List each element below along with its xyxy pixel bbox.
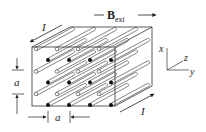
current-label-bottom: I bbox=[140, 105, 146, 117]
horizontal-spacing-indicator: a bbox=[28, 111, 90, 123]
axis-z-label: z bbox=[183, 52, 188, 63]
vertical-spacing-indicator: a bbox=[12, 58, 24, 114]
coordinate-axes: x y z bbox=[158, 43, 195, 77]
horizontal-spacing-label: a bbox=[55, 111, 61, 123]
wire-rods bbox=[35, 27, 149, 106]
wire-end-filled bbox=[67, 103, 71, 107]
vertical-spacing-label: a bbox=[14, 76, 20, 88]
axis-x-label: x bbox=[158, 43, 164, 54]
wire-end-hollow bbox=[97, 92, 101, 96]
wire-end-hollow bbox=[34, 47, 38, 51]
wire-end-filled bbox=[109, 103, 113, 107]
wire-end-filled bbox=[67, 81, 71, 85]
current-label-top: I bbox=[41, 21, 47, 33]
wire-end-hollow bbox=[76, 47, 80, 51]
wire-end-hollow bbox=[55, 70, 59, 74]
wire-end-filled bbox=[88, 58, 92, 62]
field-label-sub: ext bbox=[115, 15, 126, 24]
wire-end-filled bbox=[67, 58, 71, 62]
axis-y-label: y bbox=[189, 66, 195, 77]
field-label: Bext bbox=[107, 8, 126, 24]
wire-end-filled bbox=[46, 81, 50, 85]
wire-end-hollow bbox=[55, 92, 59, 96]
wire-end-filled bbox=[109, 81, 113, 85]
wire-end-filled bbox=[109, 58, 113, 62]
wire-end-filled bbox=[46, 58, 50, 62]
wire-end-filled bbox=[88, 81, 92, 85]
diagram-canvas: I I Bext a a x y z bbox=[0, 0, 206, 132]
wire-end-hollow bbox=[76, 70, 80, 74]
field-label-main: B bbox=[107, 8, 115, 22]
wire-end-hollow bbox=[55, 47, 59, 51]
wire-end-hollow bbox=[97, 70, 101, 74]
wire-end-hollow bbox=[34, 70, 38, 74]
wire-end-hollow bbox=[34, 92, 38, 96]
wire-end-hollow bbox=[97, 47, 101, 51]
wire-end-filled bbox=[46, 103, 50, 107]
wire-end-filled bbox=[88, 103, 92, 107]
external-field-arrow: Bext bbox=[94, 8, 156, 24]
wire-end-hollow bbox=[76, 92, 80, 96]
